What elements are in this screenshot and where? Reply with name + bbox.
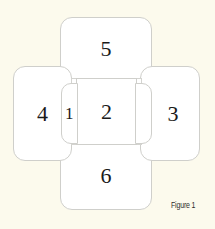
panel-5-top: 5 xyxy=(60,17,152,80)
panel-6-label: 6 xyxy=(101,165,112,187)
panel-2-label: 2 xyxy=(101,101,112,123)
panel-4-label: 4 xyxy=(37,103,48,125)
panel-3-label: 3 xyxy=(168,103,179,125)
panel-1-left-flap: 1 xyxy=(61,83,78,144)
panel-2-center: 2 xyxy=(76,78,137,145)
figure-caption: Figure 1 xyxy=(171,200,195,210)
panel-5-label: 5 xyxy=(101,38,112,60)
panel-6-bottom: 6 xyxy=(60,143,152,210)
panel-3-inner-flap xyxy=(135,83,152,144)
panel-1-label: 1 xyxy=(65,105,74,122)
